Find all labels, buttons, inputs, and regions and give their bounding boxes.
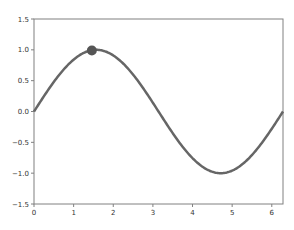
x-tick-label: 0 (32, 209, 36, 217)
y-tick-label: −1.0 (12, 170, 29, 178)
x-axis: 0123456 (32, 204, 275, 217)
y-tick-label: −0.5 (12, 139, 29, 147)
y-tick-label: 0.5 (18, 77, 29, 85)
y-tick-label: 1.0 (18, 46, 29, 54)
x-tick-label: 2 (111, 209, 115, 217)
sine-chart: −1.5−1.0−0.50.00.51.01.5 0123456 (0, 0, 294, 230)
x-tick-label: 4 (190, 209, 195, 217)
x-tick-label: 3 (151, 209, 155, 217)
y-tick-label: 0.0 (18, 108, 29, 116)
y-tick-label: 1.5 (18, 16, 29, 24)
y-axis: −1.5−1.0−0.50.00.51.01.5 (12, 16, 34, 209)
y-tick-label: −1.5 (12, 201, 29, 209)
x-tick-label: 5 (230, 209, 234, 217)
point-marker (87, 45, 97, 55)
x-tick-label: 1 (71, 209, 75, 217)
x-tick-label: 6 (270, 209, 275, 217)
